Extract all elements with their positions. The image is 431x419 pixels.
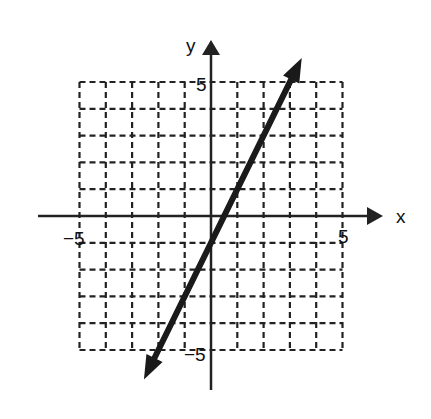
y-axis-arrow-icon (202, 40, 220, 55)
axes (38, 40, 383, 390)
x-max-tick-label: 5 (338, 226, 349, 247)
x-axis-label: x (396, 206, 406, 227)
y-max-tick-label: 5 (196, 74, 207, 95)
coordinate-plane: y x −5 5 5 −5 (0, 0, 431, 419)
graphed-line (144, 58, 302, 380)
y-axis-label: y (186, 35, 196, 56)
y-min-tick-label: −5 (184, 344, 206, 365)
line-arrow-down-icon (144, 354, 163, 380)
x-axis-arrow-icon (367, 207, 383, 225)
x-min-tick-label: −5 (63, 228, 85, 249)
line-arrow-up-icon (283, 58, 302, 84)
line-segment (152, 75, 293, 362)
